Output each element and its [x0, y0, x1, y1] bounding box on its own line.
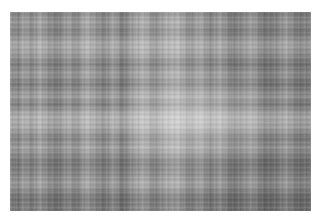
highlight-region — [10, 12, 311, 211]
plaid-texture-image — [10, 12, 311, 211]
